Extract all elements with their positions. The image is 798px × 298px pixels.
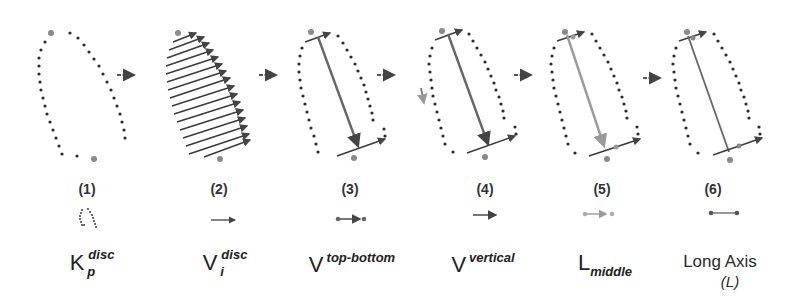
symbol-main: L <box>578 250 590 275</box>
symbol-sup: vertical <box>469 250 515 265</box>
symbol-long-axis: Long Axis (L) <box>683 252 757 292</box>
panel-5-middle <box>549 29 640 162</box>
vertical-direction-arrow-icon <box>421 88 424 103</box>
dot-line-dot-icon <box>709 211 740 216</box>
symbol-v-disc-i: Vdisci <box>203 250 248 276</box>
step-number-4: (4) <box>476 181 493 197</box>
symbol-sub: i <box>220 264 224 279</box>
symbol-v-vertical: Vvertical <box>451 250 514 278</box>
step-number-5: (5) <box>593 181 610 197</box>
step-number-6: (6) <box>704 181 721 197</box>
symbol-main: V <box>203 250 218 275</box>
symbol-k-disc-p: Kdiscp <box>70 250 115 276</box>
panel-1-contour <box>37 30 126 162</box>
panel-4-vertical <box>421 28 518 160</box>
symbol-sup: disc <box>88 247 114 262</box>
light-dot-arrow-dot-icon <box>583 212 614 216</box>
dot-arrow-dot-icon <box>336 217 367 222</box>
legend-icons <box>79 208 739 228</box>
flow-arrows <box>117 75 660 78</box>
panel-3-top-bottom <box>297 29 386 161</box>
step-number-3: (3) <box>341 181 358 197</box>
panel-2-disc-vectors <box>166 30 250 162</box>
step-number-2: (2) <box>210 181 227 197</box>
step-number-1: (1) <box>78 181 95 197</box>
symbol-l-middle: Lmiddle <box>578 250 632 279</box>
dotted-contour-icon <box>79 208 97 228</box>
symbol-main: V <box>451 252 466 277</box>
symbol-sub: middle <box>590 264 632 279</box>
symbol-main: V <box>309 252 324 277</box>
symbol-sub: p <box>87 264 95 279</box>
long-axis-label: Long Axis <box>683 252 757 271</box>
symbol-sup: disc <box>221 247 247 262</box>
panel-6-long-axis <box>671 29 762 163</box>
long-axis-symbol: (L) <box>703 272 757 292</box>
pipeline-diagram <box>0 0 798 298</box>
symbol-main: K <box>70 250 85 275</box>
symbol-v-top-bottom: Vtop-bottom <box>309 250 395 278</box>
symbol-sup: top-bottom <box>327 250 396 265</box>
